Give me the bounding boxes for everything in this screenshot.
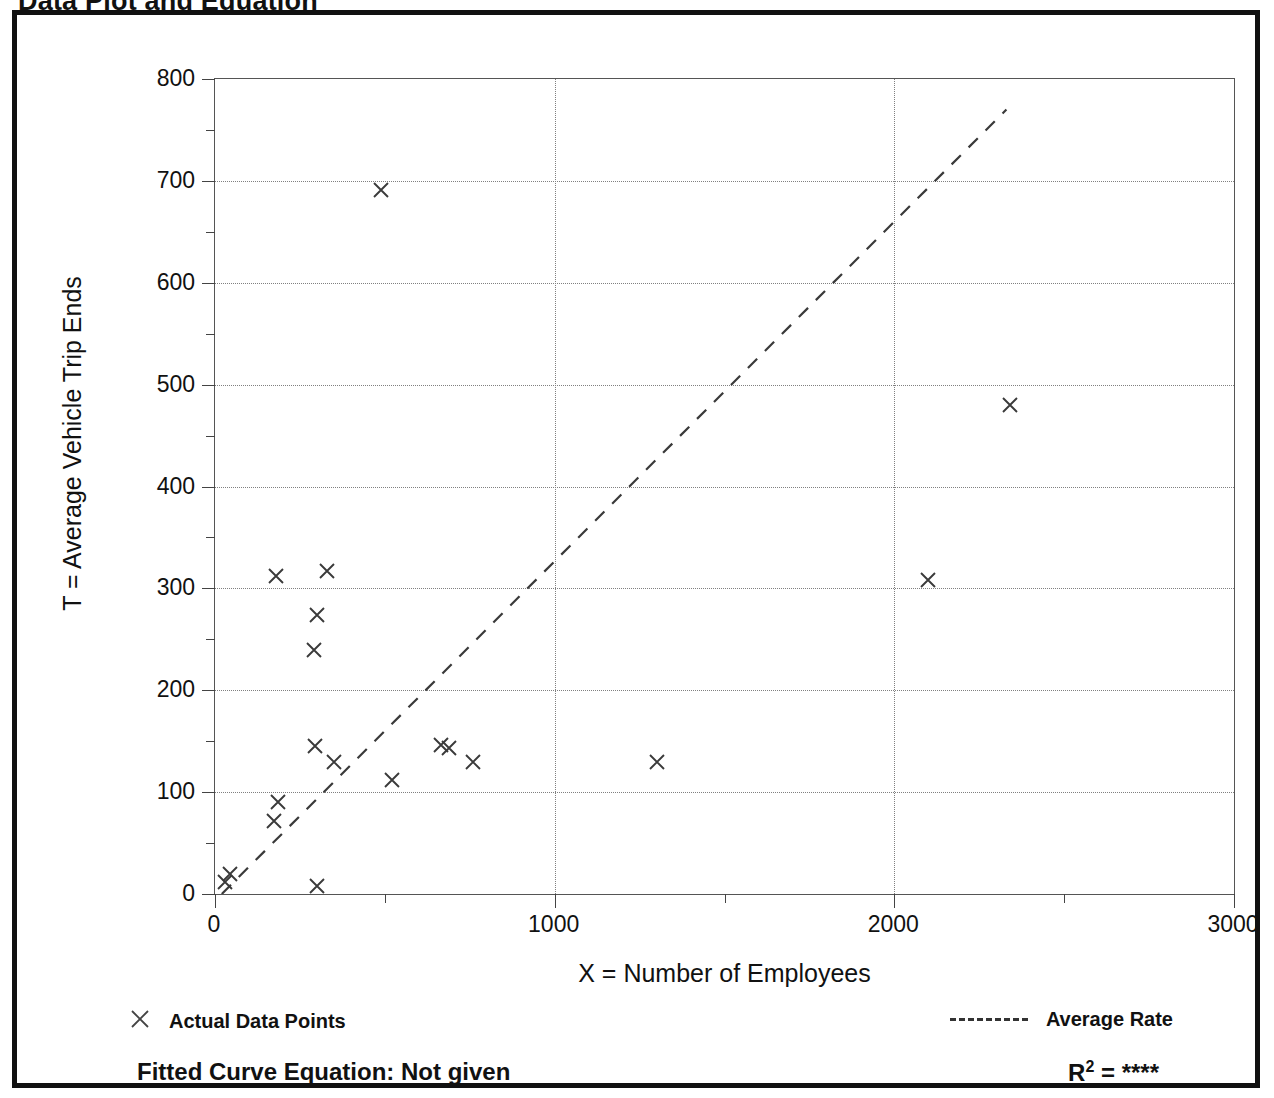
x-axis-tick-labels: 0100020003000 — [214, 911, 1235, 941]
x-tick-label: 3000 — [1207, 911, 1258, 938]
y-tick-label: 0 — [182, 880, 195, 907]
y-axis-minor-tick — [206, 436, 215, 437]
x-axis-minor-tick — [385, 894, 386, 903]
y-tick-label: 600 — [157, 268, 195, 295]
y-tick-label: 300 — [157, 574, 195, 601]
legend-item-actual-data-points: Actual Data Points — [129, 1008, 346, 1034]
y-axis-major-tick — [202, 894, 215, 895]
chart-legend: Actual Data Points Average Rate — [29, 1008, 1274, 1048]
y-axis-title: T = Average Vehicle Trip Ends — [58, 134, 87, 754]
y-axis-major-tick — [202, 385, 215, 386]
x-axis-minor-tick — [1064, 894, 1065, 903]
figure-frame: 0100200300400500600700800 0100020003000 … — [12, 10, 1260, 1088]
y-axis-minor-tick — [206, 537, 215, 538]
x-axis-major-tick — [894, 894, 895, 908]
y-tick-label: 400 — [157, 472, 195, 499]
legend-item-average-rate: Average Rate — [950, 1008, 1173, 1031]
x-tick-label: 0 — [208, 911, 221, 938]
x-axis-major-tick — [215, 894, 216, 908]
y-axis-minor-tick — [206, 130, 215, 131]
y-tick-label: 200 — [157, 676, 195, 703]
equation-footer: Fitted Curve Equation: Not given R2 = **… — [29, 1058, 1274, 1098]
y-axis-minor-tick — [206, 741, 215, 742]
y-axis-minor-tick — [206, 232, 215, 233]
y-axis-major-tick — [202, 792, 215, 793]
y-axis-minor-tick — [206, 334, 215, 335]
x-axis-major-tick — [555, 894, 556, 908]
y-tick-label: 100 — [157, 778, 195, 805]
legend-label-actual-data-points: Actual Data Points — [169, 1010, 346, 1033]
legend-label-average-rate: Average Rate — [1046, 1008, 1173, 1031]
y-axis-major-tick — [202, 283, 215, 284]
y-axis-tick-labels: 0100200300400500600700800 — [117, 78, 195, 895]
y-axis-major-tick — [202, 79, 215, 80]
average-rate-trendline — [215, 79, 1234, 894]
x-tick-label: 1000 — [528, 911, 579, 938]
plot-area — [214, 78, 1235, 895]
y-axis-major-tick — [202, 181, 215, 182]
y-axis-major-tick — [202, 487, 215, 488]
r-squared-base: R — [1068, 1059, 1085, 1086]
y-axis-minor-tick — [206, 639, 215, 640]
x-axis-major-tick — [1234, 894, 1235, 908]
fitted-curve-equation: Fitted Curve Equation: Not given — [137, 1058, 510, 1086]
y-tick-label: 800 — [157, 65, 195, 92]
r-squared-value: R2 = **** — [1068, 1058, 1159, 1087]
dashed-line-icon — [950, 1018, 1028, 1021]
y-axis-major-tick — [202, 588, 215, 589]
x-tick-label: 2000 — [868, 911, 919, 938]
r-squared-equals: = — [1094, 1059, 1121, 1086]
y-axis-major-tick — [202, 690, 215, 691]
y-tick-label: 700 — [157, 166, 195, 193]
x-axis-title: X = Number of Employees — [214, 959, 1235, 988]
x-axis-minor-tick — [725, 894, 726, 903]
r-squared-stars: **** — [1122, 1059, 1159, 1086]
r-squared-exponent: 2 — [1085, 1058, 1094, 1075]
y-axis-minor-tick — [206, 843, 215, 844]
x-marker-icon — [129, 1008, 151, 1034]
y-tick-label: 500 — [157, 370, 195, 397]
